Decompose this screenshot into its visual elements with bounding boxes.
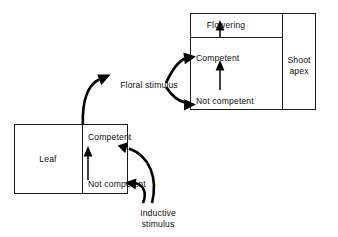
floral-stimulus-label: Floral stimulus (120, 80, 178, 91)
apex-state-competent: Competent (196, 53, 239, 64)
leaf-state-not-competent: Not competent (88, 179, 146, 190)
diagram-canvas: Flowering Competent Not competent Shoot … (0, 0, 338, 237)
arrow-floral-to-apex-not-competent (166, 87, 196, 111)
inductive-stimulus-label-line1: Inductive (140, 208, 176, 219)
arrow-floral-to-apex-competent (166, 53, 196, 83)
apex-state-not-competent: Not competent (196, 96, 254, 107)
leaf-state-competent: Competent (88, 132, 131, 143)
arrow-apex-not-competent-to-competent (216, 60, 225, 90)
apex-state-flowering: Flowering (207, 20, 246, 31)
shoot-apex-label-line2: apex (289, 66, 308, 77)
leaf-label: Leaf (39, 154, 56, 165)
arrow-leaf-to-floral-stimulus (83, 74, 111, 124)
inductive-stimulus-label-line2: stimulus (142, 219, 175, 230)
shoot-apex-label-line1: Shoot (287, 55, 310, 66)
diagram-vector-layer (0, 0, 338, 237)
arrow-leaf-not-competent-to-competent (84, 146, 93, 180)
